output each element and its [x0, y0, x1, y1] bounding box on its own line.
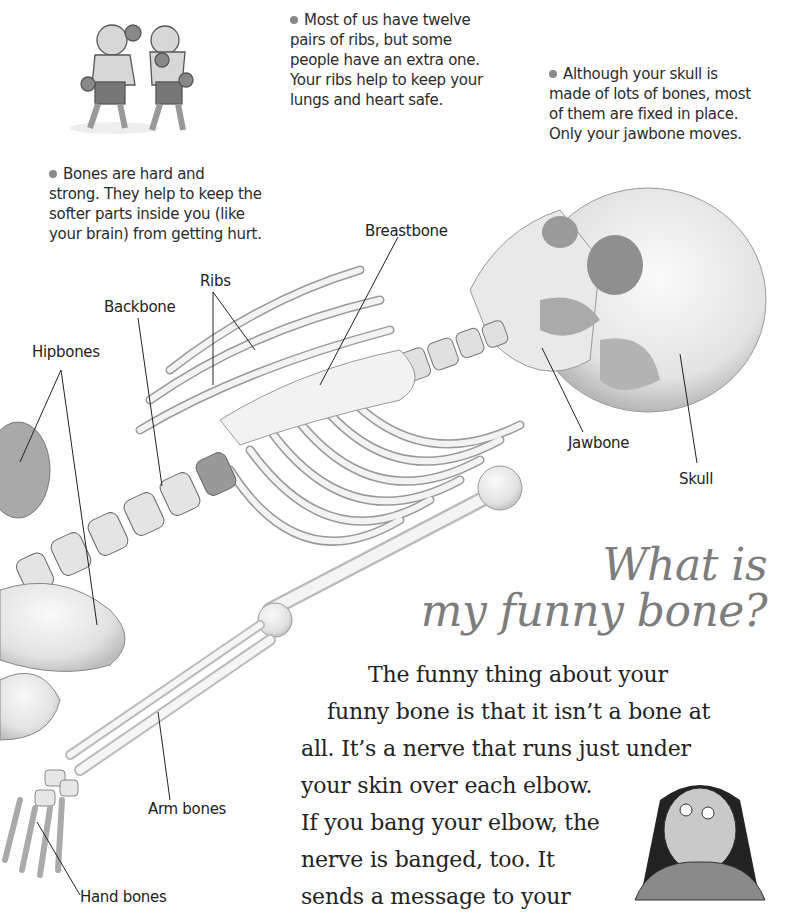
fact-skull: Although your skull is made of lots of b… — [549, 64, 769, 144]
label-skull: Skull — [679, 470, 713, 488]
fact-ribs: Most of us have twelve pairs of ribs, bu… — [290, 10, 510, 110]
bullet-icon — [549, 70, 557, 78]
boxers-illustration — [70, 25, 193, 134]
body-paragraph: The funny thing about your funny bone is… — [0, 656, 787, 913]
bullet-icon — [49, 170, 57, 178]
label-jawbone: Jawbone — [568, 434, 629, 452]
label-backbone: Backbone — [104, 298, 175, 316]
bullet-icon — [290, 16, 298, 24]
page-title: What is my funny bone? — [307, 542, 767, 634]
label-ribs: Ribs — [200, 272, 231, 290]
label-breastbone: Breastbone — [365, 222, 448, 240]
skull-illustration — [470, 188, 766, 412]
fact-bones: Bones are hard and strong. They help to … — [49, 164, 289, 244]
label-hipbones: Hipbones — [32, 343, 100, 361]
